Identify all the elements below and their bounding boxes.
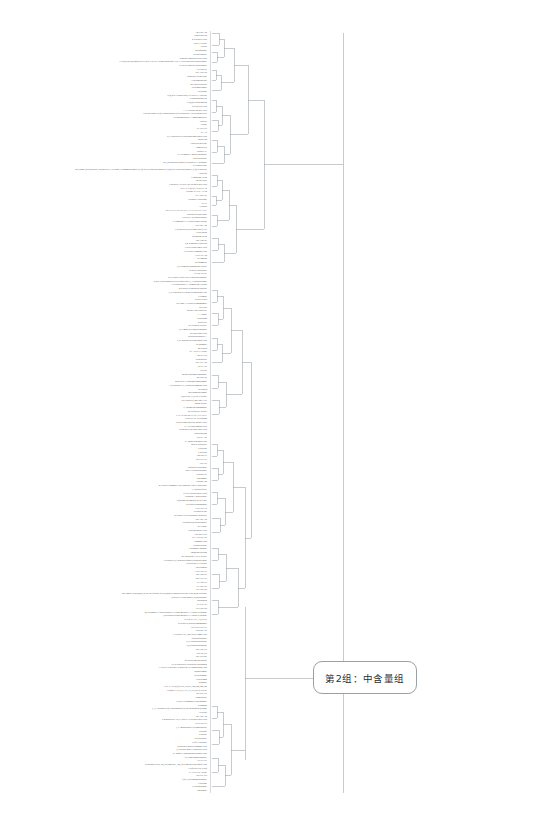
dendrogram-tree: [0, 0, 539, 838]
group-label-box[interactable]: 第2组：中含量组: [313, 661, 417, 694]
group-label-text: 第2组：中含量组: [325, 671, 404, 685]
dendrogram-figure: Arg-Gln-AsnNigericin acid4-Pyridoxic aci…: [0, 0, 539, 838]
